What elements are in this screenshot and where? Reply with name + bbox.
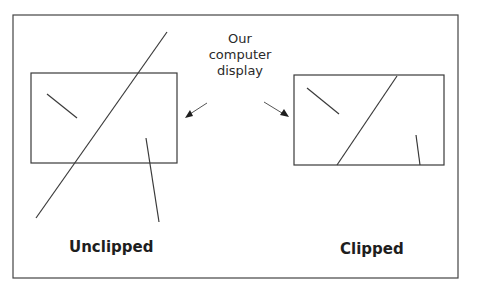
right-arrow-icon <box>264 102 289 117</box>
clipped-short-line <box>307 88 339 114</box>
callout-text: Our computer display <box>190 31 290 79</box>
clipped-display-rect <box>294 75 444 165</box>
clipped-panel <box>294 75 444 165</box>
callout-line-3: display <box>190 63 290 79</box>
unclipped-diagonal-line <box>36 32 167 218</box>
unclipped-label: Unclipped <box>69 238 153 256</box>
left-arrow-icon <box>185 103 207 118</box>
unclipped-panel <box>31 32 177 222</box>
unclipped-short-line <box>47 94 77 118</box>
clipped-diagonal-line <box>337 76 397 165</box>
clipped-label: Clipped <box>340 240 404 258</box>
clipped-vertical-line <box>416 135 420 165</box>
callout-line-1: Our <box>190 31 290 47</box>
unclipped-vertical-line <box>146 138 159 222</box>
callout-line-2: computer <box>190 47 290 63</box>
unclipped-display-rect <box>31 73 177 163</box>
